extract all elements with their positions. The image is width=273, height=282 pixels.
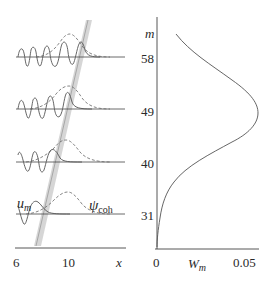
x-tick-6: 6 [13, 255, 20, 270]
y-tick-40: 40 [141, 156, 154, 171]
turning-point-band [34, 20, 92, 246]
psi-coh-label: ψcoh [89, 197, 113, 215]
x-axis-label: x [115, 255, 122, 270]
u-m-curve [18, 149, 82, 172]
y-tick-58: 58 [141, 51, 154, 66]
wave-row-3 [16, 140, 125, 172]
wave-row-1 [16, 34, 125, 66]
x-tick-10: 10 [62, 255, 75, 270]
w-tick-0-05: 0.05 [233, 255, 256, 270]
w-m-curve [157, 34, 258, 247]
u-m-label: um [17, 196, 31, 213]
y-tick-49: 49 [141, 104, 154, 119]
psi-coh-curve [36, 34, 110, 57]
y-tick-31: 31 [141, 208, 154, 223]
psi-coh-curve [26, 140, 110, 162]
u-m-curve [18, 92, 92, 118]
right-panel: m 58 49 40 31 0 Wm 0.05 [141, 17, 259, 273]
w-axis-label: Wm [188, 256, 206, 273]
y-axis-label: m [145, 26, 154, 41]
u-m-curve [18, 42, 100, 66]
left-panel: um ψcoh 6 10 x [13, 20, 126, 270]
w-tick-0: 0 [153, 255, 160, 270]
figure: um ψcoh 6 10 x m 58 49 40 31 0 Wm 0.05 [0, 0, 273, 282]
